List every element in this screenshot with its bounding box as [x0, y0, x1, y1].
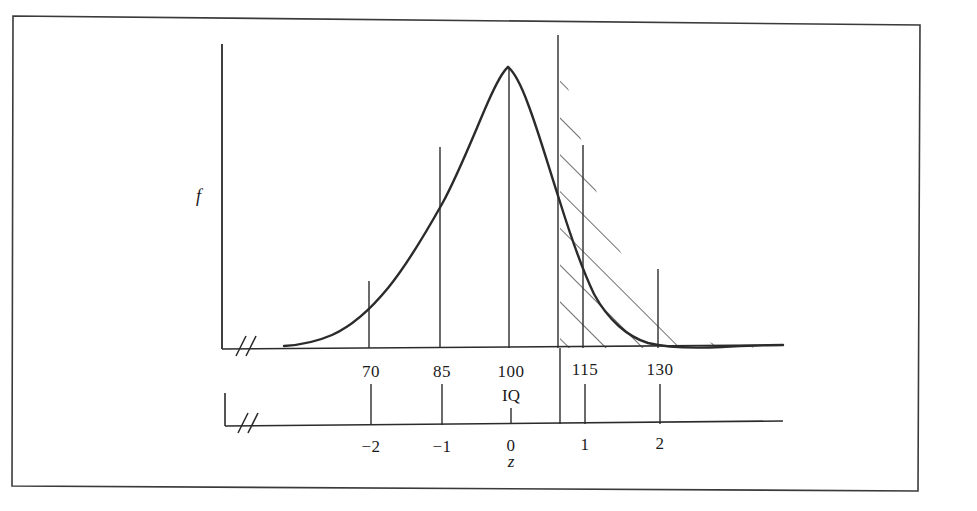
z-axis-break-icon — [238, 413, 258, 433]
iq-tick-label-115: 115 — [572, 360, 598, 380]
z-tick-label-2: 2 — [656, 434, 665, 454]
z-axis-label: z — [508, 452, 515, 472]
figure-border — [12, 16, 920, 491]
normal-curve — [284, 67, 783, 348]
z-tick-label-1: 1 — [581, 435, 590, 455]
z-tick-label-neg2: −2 — [361, 437, 380, 457]
shaded-tail-region — [556, 50, 796, 350]
iq-tick-label-100: 100 — [498, 362, 525, 382]
z-tick-label-neg1: −1 — [432, 437, 451, 457]
iq-tick-label-70: 70 — [362, 362, 380, 382]
vertical-axis-label: f — [196, 186, 201, 207]
distribution-chart-svg — [0, 0, 977, 511]
figure-container: f 70 85 100 115 130 IQ −2 −1 0 1 2 z — [0, 0, 977, 511]
iq-axis-label: IQ — [502, 386, 520, 406]
iq-tick-label-85: 85 — [433, 362, 451, 382]
iq-tick-label-130: 130 — [647, 360, 674, 380]
iq-axis-break-icon — [236, 336, 256, 356]
